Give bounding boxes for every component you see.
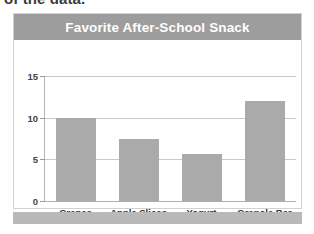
bar [245,101,285,201]
footer-band [13,212,302,224]
chart-header: Favorite After-School Snack [14,14,301,40]
chart-title: Favorite After-School Snack [65,20,249,35]
y-tick-label: 5 [16,154,38,165]
bar [56,118,96,201]
y-tick-label: 15 [16,71,38,82]
bars-layer [44,40,296,208]
y-tick-label: 10 [16,112,38,123]
axes: 051015 GrapesApple SlicesYogurtGranola B… [44,40,296,208]
plot-area: 051015 GrapesApple SlicesYogurtGranola B… [14,40,301,208]
cutoff-sentence: of the data. [4,0,85,7]
cutoff-text-strip: of the data. [0,0,314,11]
chart-card: Favorite After-School Snack 051015 Grape… [13,13,302,209]
bar [119,139,159,202]
bar [182,154,222,202]
y-tick-label: 0 [16,196,38,207]
